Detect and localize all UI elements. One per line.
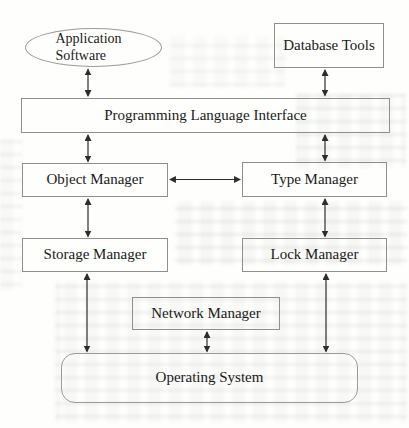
node-label: Database Tools: [283, 37, 375, 54]
node-label: Programming Language Interface: [104, 107, 306, 124]
bleed-through-artifact: [0, 140, 22, 290]
diagram-canvas: Application Software Database Tools Prog…: [0, 0, 409, 428]
node-type-manager: Type Manager: [242, 162, 387, 197]
node-database-tools: Database Tools: [274, 23, 384, 68]
node-application-software: Application Software: [25, 28, 162, 67]
node-label: Application Software: [56, 31, 132, 63]
node-lock-manager: Lock Manager: [242, 238, 387, 272]
node-label: Type Manager: [271, 171, 358, 188]
node-network-manager: Network Manager: [132, 297, 280, 330]
node-operating-system: Operating System: [61, 353, 358, 403]
node-label: Network Manager: [151, 305, 261, 322]
node-storage-manager: Storage Manager: [22, 238, 168, 272]
node-object-manager: Object Manager: [22, 163, 168, 197]
node-label: Lock Manager: [271, 246, 359, 263]
bleed-through-artifact: [170, 36, 285, 88]
node-label: Storage Manager: [44, 246, 147, 263]
node-label: Object Manager: [46, 171, 143, 188]
node-programming-language-interface: Programming Language Interface: [21, 98, 390, 133]
node-label: Operating System: [156, 369, 264, 386]
